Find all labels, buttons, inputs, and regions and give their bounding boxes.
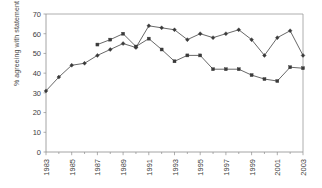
series-2-marker [224,68,227,71]
data-series-group [44,24,305,93]
series-2-marker [212,68,215,71]
series-2-marker [289,66,292,69]
line-chart-plot: 010203040506070 198319851987198919911993… [0,0,322,188]
x-tick-label: 1993 [171,159,180,176]
series-2-marker [109,38,112,41]
series-1-marker [96,53,100,57]
series-1-marker [121,42,125,46]
series-2-marker [134,45,137,48]
series-line-1 [46,26,303,91]
x-tick-label: 1999 [248,159,257,176]
series-2-marker [199,54,202,57]
y-tick-label: 0 [37,148,41,157]
x-tick-label: 1987 [93,159,102,176]
y-tick-label: 60 [33,30,41,39]
x-tick-label: 1995 [196,159,205,176]
x-tick-label: 2001 [273,159,282,176]
series-2-marker [96,43,99,46]
series-1-marker [301,53,305,57]
series-2-marker [250,74,253,77]
series-1-marker [224,32,228,36]
y-tick-label: 30 [33,89,41,98]
y-tick-label: 70 [33,10,41,19]
series-2-marker [173,60,176,63]
series-1-marker [160,26,164,30]
series-1-marker [83,61,87,65]
series-2-marker [160,48,163,51]
series-2-marker [186,54,189,57]
series-2-marker [237,68,240,71]
y-tick-label: 20 [33,108,41,117]
y-tick-label: 40 [33,69,41,78]
series-1-marker [147,24,151,28]
x-tick-label: 1983 [42,159,51,176]
x-axis-tick-labels: 1983198519871989199119931995199719992001… [42,159,308,176]
x-tick-label: 2003 [299,159,308,176]
y-tick-label: 10 [33,128,41,137]
x-tick-label: 1985 [68,159,77,176]
series-2-marker [122,32,125,35]
series-1-marker [108,47,112,51]
x-tick-label: 1997 [222,159,231,176]
series-2-marker [302,67,305,70]
chart-figure: % agreeing with statement 01020304050607… [0,0,322,188]
y-tick-label: 50 [33,49,41,58]
series-1-marker [211,36,215,40]
series-2-marker [276,80,279,83]
x-tick-label: 1989 [119,159,128,176]
series-1-marker [198,32,202,36]
series-2-marker [147,37,150,40]
series-1-marker [288,29,292,33]
series-2-marker [263,78,266,81]
x-tick-label: 1991 [145,159,154,176]
y-axis-tick-labels: 010203040506070 [33,10,41,157]
x-axis-tick-marks [46,152,303,155]
series-line-2 [97,34,303,81]
